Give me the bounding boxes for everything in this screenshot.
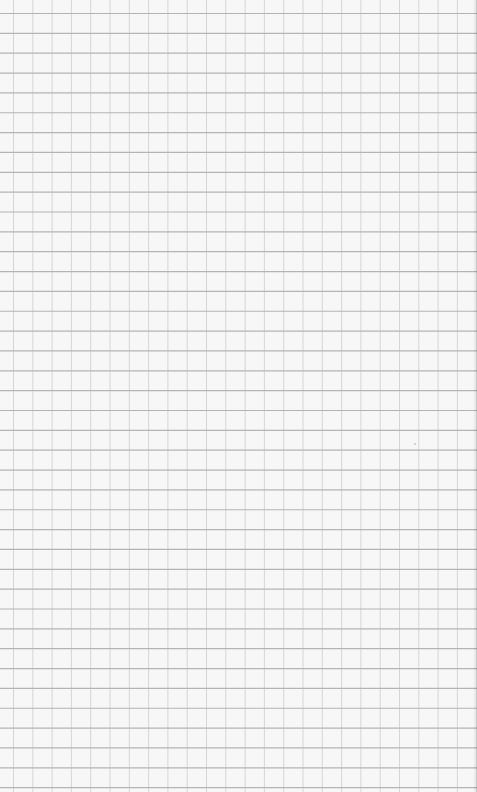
paper-speck [414,443,416,445]
page-edge-shadow [473,0,477,792]
grid-paper-sheet [0,0,477,792]
grid-lines [0,0,477,792]
